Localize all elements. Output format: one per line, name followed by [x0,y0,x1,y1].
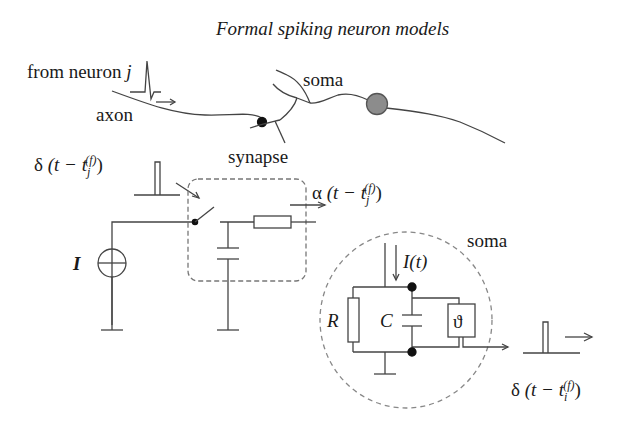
synapse-label: synapse [228,147,288,166]
switch-blade [195,207,214,222]
formula-close: ) [376,182,382,203]
output-wire [463,337,508,347]
diagram-title: Formal spiking neuron models [216,19,449,38]
node-top [408,283,416,291]
dendrite-main [280,98,297,120]
soma-body [367,94,388,115]
formula-open: (t − t [322,182,366,203]
capacitor-label: C [380,311,393,330]
formula-sup: (f) [364,181,375,195]
synapse-resistor [254,216,291,228]
soma-label-top: soma [303,70,343,89]
alpha-symbol: α [312,182,322,203]
neuron-index: j [126,61,131,82]
threshold-label: ϑ [453,312,462,331]
input-current-label: I(t) [403,252,427,271]
from-neuron-label: from neuron j [27,62,131,81]
dendrite-branch-1 [273,84,297,98]
formula-open: (t − t [520,379,564,400]
synapse-box [188,179,306,281]
soma-axon [386,108,505,143]
synapse-pointer [275,121,285,143]
soma-label-circuit: soma [467,231,507,250]
current-source-label: I [73,254,80,273]
axon-label: axon [96,105,133,124]
input-spike-formula: δ (t − tj(f)) [34,155,103,174]
delta-symbol: δ [511,379,520,400]
input-pulse [134,162,180,195]
neuron-model-diagram: Formal spiking neuron models from neuron… [0,0,625,434]
alpha-kernel-formula: α (t − tj(f)) [312,183,382,202]
output-spike-formula: δ (t − ti(f)) [511,380,581,399]
action-potential-waveform [130,61,161,99]
threshold-wire-bottom [412,337,459,347]
from-neuron-text: from neuron [27,61,126,82]
formula-open: (t − t [43,154,87,175]
soma-resistor [348,298,359,342]
dendrite-to-soma [310,94,368,103]
formula-sup: (f) [85,153,96,167]
resistor-label: R [327,311,339,330]
wire-source-to-switch [112,222,194,325]
formula-sup: (f) [563,378,574,392]
axon-line [112,91,262,118]
formula-close: ) [97,154,103,175]
delta-symbol: δ [34,154,43,175]
formula-close: ) [575,379,581,400]
threshold-wire-top [412,298,459,304]
node-bottom [408,348,416,356]
